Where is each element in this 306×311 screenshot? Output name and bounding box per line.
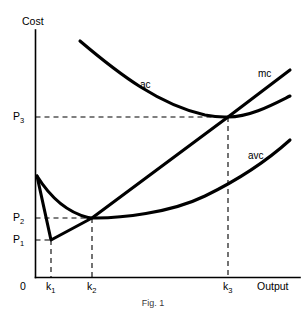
y-axis-title: Cost bbox=[22, 16, 44, 27]
x-tick-k3-sub: 3 bbox=[228, 286, 232, 295]
origin-label: 0 bbox=[20, 281, 26, 292]
y-tick-label-p2: P2 bbox=[13, 212, 24, 226]
x-tick-label-k2: k2 bbox=[87, 281, 96, 295]
guide-lines-group bbox=[36, 117, 229, 277]
x-tick-k2-sub: 2 bbox=[92, 286, 96, 295]
curves-group bbox=[37, 41, 290, 240]
x-tick-label-k1: k1 bbox=[46, 281, 55, 295]
y-tick-label-p1: P1 bbox=[13, 234, 24, 248]
y-tick-p2-sub: 2 bbox=[20, 217, 24, 226]
y-tick-p3-text: P bbox=[13, 110, 20, 122]
ac-curve bbox=[80, 41, 290, 117]
x-tick-label-k3: k3 bbox=[223, 281, 232, 295]
x-tick-k1-sub: 1 bbox=[51, 286, 55, 295]
figure-caption: Fig. 1 bbox=[0, 298, 306, 308]
avc-curve-label: avc bbox=[248, 151, 264, 161]
y-tick-label-p3: P3 bbox=[13, 111, 24, 125]
y-tick-p2-text: P bbox=[13, 211, 20, 223]
y-tick-p1-text: P bbox=[13, 233, 20, 245]
cost-curves-figure: Cost Output 0 P3 P2 P1 k1 k2 k3 ac mc av… bbox=[0, 0, 306, 311]
ac-curve-label: ac bbox=[140, 80, 151, 90]
y-tick-p3-sub: 3 bbox=[20, 116, 24, 125]
x-axis-title: Output bbox=[257, 281, 289, 292]
y-tick-p1-sub: 1 bbox=[20, 239, 24, 248]
mc-curve-label: mc bbox=[258, 69, 271, 79]
